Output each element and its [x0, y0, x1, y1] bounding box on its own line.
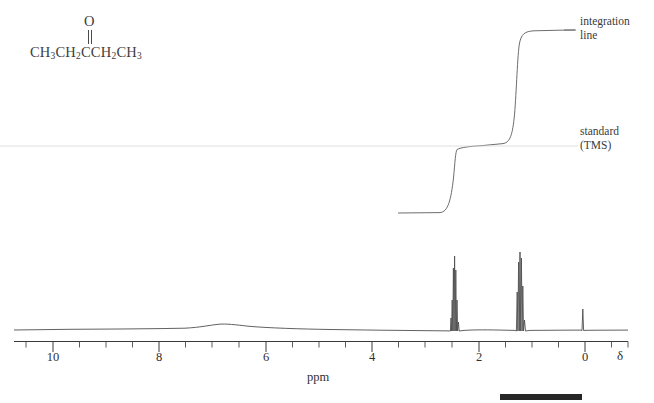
- axis-tick-label-4: 4: [369, 350, 375, 365]
- axis-tick-label-0: 0: [582, 350, 588, 365]
- axis-tick-label-10: 10: [47, 350, 60, 365]
- double-bond-icon: [87, 30, 94, 44]
- integration-line: [398, 30, 576, 213]
- axis-tick-label-6: 6: [263, 350, 269, 365]
- integration-line-annotation: integration line: [580, 14, 630, 42]
- axis-tick-label-2: 2: [476, 350, 482, 365]
- axis-delta-symbol: δ: [617, 348, 623, 364]
- axis-unit-label: ppm: [307, 370, 329, 385]
- axis-tick-label-8: 8: [156, 350, 162, 365]
- bottom-rule-bar: [500, 394, 582, 400]
- baseline-trace: [14, 252, 628, 331]
- standard-annotation-line1: standard: [580, 124, 619, 138]
- integration-annotation-line1: integration: [580, 14, 630, 28]
- standard-annotation: standard (TMS): [580, 124, 619, 152]
- nmr-figure: O CH3CH2CCH2CH3 integration line standar…: [0, 0, 654, 403]
- standard-annotation-line2: (TMS): [580, 138, 619, 152]
- structure-formula: CH3CH2CCH2CH3: [30, 44, 142, 61]
- carbonyl-oxygen-label: O: [84, 13, 94, 30]
- integration-annotation-line2: line: [580, 28, 630, 42]
- molecular-structure: O CH3CH2CCH2CH3: [22, 14, 192, 72]
- spectrum-trace: [14, 252, 628, 331]
- axis-minor-ticks: [26, 342, 628, 348]
- axis: [14, 342, 628, 353]
